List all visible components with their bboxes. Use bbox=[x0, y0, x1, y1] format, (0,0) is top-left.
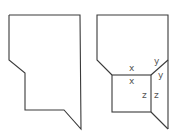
fold-diagonal-bottom bbox=[151, 112, 168, 129]
unfolded-shape-outline bbox=[9, 15, 81, 129]
label-y-top: y bbox=[154, 56, 160, 66]
diagram-canvas: x x y y z z bbox=[0, 0, 179, 139]
unfolded-shape bbox=[9, 15, 81, 129]
label-x-bottom: x bbox=[129, 76, 135, 86]
folded-shape: x x y y z z bbox=[97, 15, 168, 129]
label-z-left: z bbox=[142, 90, 147, 100]
label-z-right: z bbox=[154, 90, 159, 100]
label-y-bottom: y bbox=[158, 70, 164, 80]
label-x-top: x bbox=[129, 63, 135, 73]
